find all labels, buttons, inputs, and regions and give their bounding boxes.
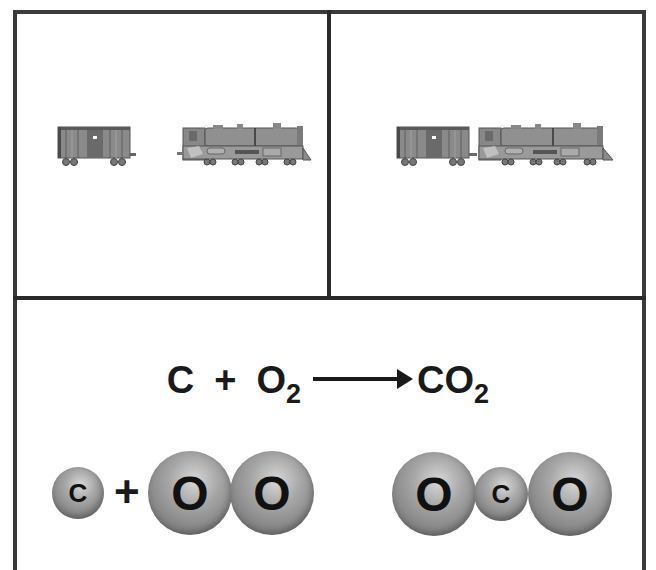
vertical-divider bbox=[327, 10, 331, 300]
chemical-equation: C + O2 CO2 bbox=[0, 345, 656, 415]
product-co2: CO2 bbox=[417, 359, 489, 402]
reactant-carbon: C bbox=[167, 359, 194, 402]
carbon-atom: C bbox=[474, 467, 528, 521]
locomotive-icon bbox=[477, 122, 617, 166]
oxygen-symbol: O bbox=[257, 359, 287, 401]
locomotive-icon bbox=[177, 122, 317, 166]
product-symbol: CO bbox=[417, 359, 474, 401]
arrow-right-icon bbox=[313, 377, 409, 381]
oxygen-atom: O bbox=[148, 451, 232, 535]
oxygen-atom: O bbox=[392, 452, 476, 536]
plus-sign: + bbox=[214, 359, 236, 402]
reactant-oxygen: O2 bbox=[257, 359, 302, 402]
product-subscript: 2 bbox=[474, 379, 489, 409]
plus-sign: + bbox=[114, 470, 140, 514]
carbon-atom: C bbox=[52, 467, 104, 519]
oxygen-subscript: 2 bbox=[286, 379, 301, 409]
boxcar-icon bbox=[397, 127, 477, 167]
horizontal-divider bbox=[13, 296, 646, 300]
oxygen-atom: O bbox=[230, 451, 314, 535]
oxygen-atom: O bbox=[528, 452, 612, 536]
boxcar-icon bbox=[58, 127, 138, 167]
